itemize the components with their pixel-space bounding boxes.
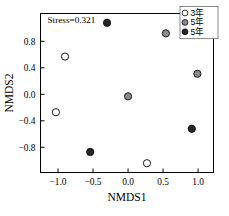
y-tick-label: 0.8 xyxy=(24,37,36,47)
legend-marker-gray-circle xyxy=(182,20,188,26)
series-1 xyxy=(124,30,201,100)
x-axis: −1.0−0.50.00.51.0 xyxy=(50,169,205,187)
data-point xyxy=(61,53,68,60)
data-point xyxy=(143,160,150,167)
legend-label: 5年 xyxy=(191,26,205,37)
data-points xyxy=(52,19,201,167)
data-point xyxy=(87,148,94,155)
series-0 xyxy=(52,53,150,167)
legend-label: 5年 xyxy=(191,16,205,27)
data-point xyxy=(52,109,59,116)
y-tick-label: −0.8 xyxy=(18,143,35,153)
x-tick-label: −0.5 xyxy=(85,177,102,187)
data-point xyxy=(188,125,195,132)
y-axis-title: NMDS2 xyxy=(3,73,15,112)
data-point xyxy=(124,93,131,100)
x-axis-title: NMDS1 xyxy=(108,191,147,203)
y-tick-label: 0.4 xyxy=(24,63,36,73)
legend-marker-open-circle xyxy=(182,10,188,16)
y-tick-label: −0.4 xyxy=(18,116,35,126)
data-point xyxy=(194,70,201,77)
data-point xyxy=(162,30,169,37)
x-tick-label: 1.0 xyxy=(192,177,204,187)
x-tick-label: 0.5 xyxy=(157,177,169,187)
x-tick-label: −1.0 xyxy=(50,177,67,187)
chart-canvas: −1.0−0.50.00.51.0NMDS10.80.40.0−0.4−0.8N… xyxy=(0,0,229,216)
stress-annotation: Stress=0.321 xyxy=(48,15,96,25)
y-tick-label: 0.0 xyxy=(24,90,36,100)
legend-marker-filled-circle xyxy=(182,29,188,35)
x-tick-label: 0.0 xyxy=(122,177,134,187)
legend-label: 3年 xyxy=(191,7,205,18)
data-point xyxy=(103,19,110,26)
series-2 xyxy=(87,19,196,155)
legend: 3年5年5年 xyxy=(180,7,218,39)
nmds-scatter-figure: −1.0−0.50.00.51.0NMDS10.80.40.0−0.4−0.8N… xyxy=(0,0,229,216)
